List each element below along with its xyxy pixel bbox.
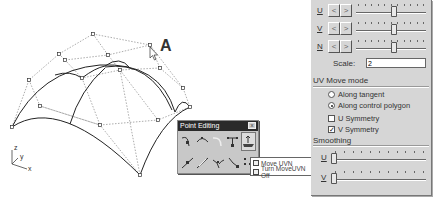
adjust-end-button[interactable] (226, 153, 240, 172)
u-slider-row: U < > (311, 3, 432, 19)
insert-point-button[interactable] (180, 153, 194, 172)
axis-x-label: x (28, 165, 32, 172)
axis-y-label: y (20, 153, 24, 160)
n-decrease-button[interactable]: < (328, 40, 340, 53)
annotation-label-a: A (160, 37, 172, 55)
smoothing-v-row: V (311, 170, 432, 186)
toolbar-row-2 (178, 152, 258, 173)
smoothing-u-ticks (335, 151, 424, 154)
smoothing-v-thumb[interactable] (331, 173, 337, 184)
insert-knot-button[interactable] (180, 132, 194, 151)
scale-row: Scale: (311, 57, 432, 69)
scale-label: Scale: (333, 59, 355, 68)
checkbox-label: V Symmetry (338, 125, 379, 134)
along-tangent-radio[interactable]: Along tangent (328, 90, 384, 99)
v-increase-button[interactable]: > (340, 22, 352, 35)
move-uvn-panel: U < > V < > N < > Scale: UV Move mode Al… (311, 0, 432, 196)
u-decrease-button[interactable]: < (328, 4, 340, 17)
toolbar-row-1 (178, 131, 258, 152)
checkbox-icon (328, 115, 335, 122)
toolbar-title: Point Editing (180, 122, 219, 129)
radio-selected-icon (328, 102, 335, 109)
smoothing-u-row: U (311, 150, 432, 166)
move-uvn-icon (242, 135, 255, 148)
n-slider-row: N < > (311, 39, 432, 55)
u-increase-button[interactable]: > (340, 4, 352, 17)
tweak-curve-button[interactable] (211, 153, 225, 172)
flyout-item-label: Turn MoveUVN Off (261, 165, 315, 179)
smoothing-v-label: V (321, 173, 326, 182)
scale-input[interactable] (366, 58, 426, 68)
mouse-cursor-icon (150, 47, 158, 60)
handlebar-icon (226, 135, 239, 148)
insert-kink-button[interactable] (195, 132, 209, 151)
smoothing-u-thumb[interactable] (331, 153, 337, 164)
close-button[interactable]: x (248, 122, 256, 129)
move-uvn-icon (253, 160, 259, 166)
handlebar-button[interactable] (226, 132, 240, 151)
u-symmetry-checkbox[interactable]: U Symmetry (328, 114, 379, 123)
remove-point-button[interactable] (195, 153, 209, 172)
group-divider (313, 86, 429, 88)
smoothing-u-track[interactable] (333, 159, 426, 161)
uv-move-mode-title: UV Move mode (313, 76, 368, 85)
axis-z-label: z (14, 144, 18, 151)
flyout-item-turn-off[interactable]: Turn MoveUVN Off (251, 168, 315, 176)
v-decrease-button[interactable]: < (328, 22, 340, 35)
option-label: Along tangent (338, 90, 384, 99)
edit-curve-icon (211, 135, 224, 148)
option-label: Along control polygon (338, 101, 410, 110)
n-label: N (317, 42, 323, 51)
toolbar-title-bar[interactable]: Point Editing x (178, 121, 258, 131)
point-editing-toolbar: Point Editing x (177, 120, 259, 174)
checkbox-label: U Symmetry (338, 114, 379, 123)
v-symmetry-checkbox[interactable]: ✓ V Symmetry (328, 125, 379, 134)
tweak-curve-icon (212, 156, 225, 169)
edit-curve-button[interactable] (211, 132, 225, 151)
along-control-polygon-radio[interactable]: Along control polygon (328, 101, 410, 110)
n-increase-button[interactable]: > (340, 40, 352, 53)
group-divider (313, 145, 429, 147)
v-label: V (317, 24, 322, 33)
insert-knot-icon (181, 135, 194, 148)
v-slider-thumb[interactable] (391, 24, 397, 35)
u-slider-thumb[interactable] (391, 6, 397, 17)
radio-icon (328, 91, 335, 98)
move-uvn-off-icon (253, 169, 259, 175)
insert-kink-icon (196, 135, 209, 148)
smoothing-title: Smoothing (313, 136, 351, 145)
n-slider-thumb[interactable] (391, 42, 397, 53)
smoothing-v-ticks (335, 171, 424, 174)
u-label: U (317, 6, 323, 15)
move-uvn-button[interactable] (241, 132, 256, 151)
remove-point-icon (196, 156, 209, 169)
checkmark-icon: ✓ (328, 126, 335, 133)
adjust-end-icon (227, 156, 240, 169)
smoothing-v-track[interactable] (333, 179, 426, 181)
move-uvn-flyout: Move UVN Turn MoveUVN Off (250, 157, 316, 176)
smoothing-u-label: U (321, 153, 327, 162)
insert-point-icon (181, 156, 194, 169)
v-slider-row: V < > (311, 21, 432, 37)
